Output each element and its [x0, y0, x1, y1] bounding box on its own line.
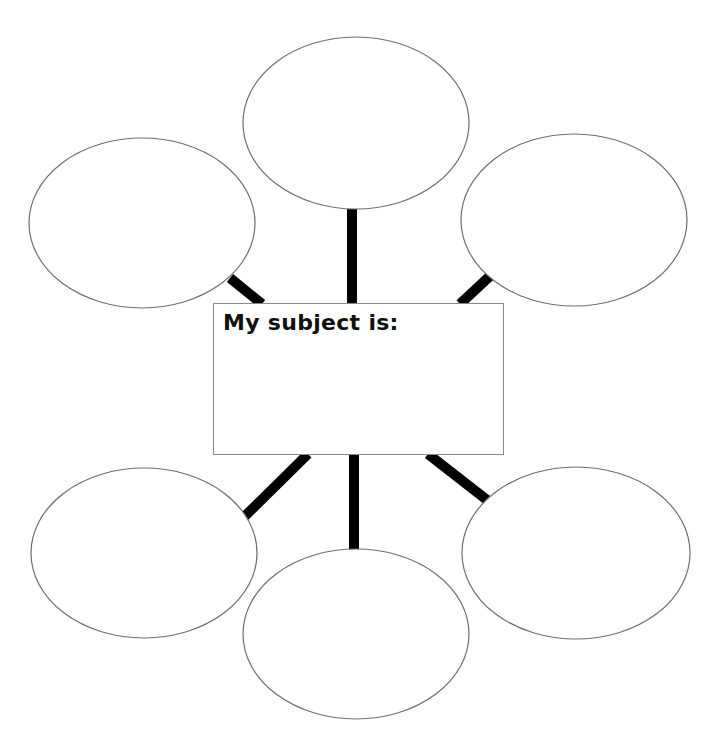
connector-upper-left	[230, 278, 262, 304]
bubble-lower-right-input[interactable]	[502, 501, 654, 608]
bubble-upper-right-input[interactable]	[501, 168, 652, 275]
subject-box: My subject is:	[213, 303, 504, 455]
connector-upper-right	[460, 276, 490, 304]
subject-input[interactable]	[224, 348, 496, 450]
subject-title: My subject is:	[223, 310, 399, 335]
bubble-upper-left-input[interactable]	[69, 172, 220, 278]
bubble-bottom-input[interactable]	[283, 583, 434, 689]
bubble-lower-left-input[interactable]	[71, 502, 222, 608]
bubble-top-input[interactable]	[283, 71, 434, 178]
connector-lower-left	[243, 454, 308, 518]
connector-lower-right	[428, 454, 487, 500]
